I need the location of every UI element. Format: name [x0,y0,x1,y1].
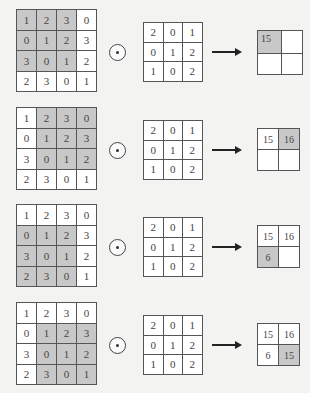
input-cell: 1 [77,266,97,287]
output-cell: 15 [258,324,279,345]
output-cell: 15 [279,345,300,366]
input-cell: 2 [77,344,97,365]
input-cell: 3 [57,10,77,31]
input-cell: 0 [57,266,77,287]
kernel-cell: 1 [144,257,164,277]
input-cell: 2 [37,108,57,129]
input-cell: 1 [17,303,37,324]
input-cell: 2 [77,149,97,170]
kernel-cell: 2 [183,42,203,62]
input-cell: 0 [77,108,97,129]
input-cell: 2 [17,364,37,385]
kernel-cell: 0 [163,257,183,277]
arrow-right-icon [212,149,236,151]
kernel-cell: 2 [183,355,203,375]
step-1: 1 2 3 0 0 1 2 3 3 0 1 2 2 3 0 1 [0,9,310,93]
input-cell: 3 [37,169,57,190]
input-cell: 3 [37,364,57,385]
output-cell: 15 [258,129,279,150]
output-matrix: 15 16 6 15 [257,323,300,366]
input-cell: 1 [17,205,37,226]
kernel-cell: 1 [163,140,183,160]
input-cell: 2 [17,169,37,190]
kernel-cell: 0 [163,316,183,336]
kernel-cell: 2 [183,257,203,277]
kernel-cell: 2 [144,218,164,238]
input-cell: 2 [57,323,77,344]
input-cell: 3 [77,225,97,246]
input-cell: 0 [77,10,97,31]
input-cell: 0 [17,128,37,149]
kernel-cell: 1 [163,237,183,257]
input-cell: 2 [77,51,97,72]
input-cell: 2 [57,225,77,246]
convolution-operator-icon [109,44,126,61]
kernel-cell: 0 [144,140,164,160]
kernel-cell: 2 [144,23,164,43]
input-cell: 2 [37,205,57,226]
input-cell: 2 [17,266,37,287]
input-cell: 3 [57,303,77,324]
input-cell: 1 [77,364,97,385]
output-cell: 15 [258,31,282,54]
kernel-cell: 2 [183,140,203,160]
kernel-cell: 2 [183,160,203,180]
input-cell: 3 [57,205,77,226]
kernel-cell: 1 [144,160,164,180]
input-cell: 1 [37,225,57,246]
kernel-cell: 0 [163,121,183,141]
kernel-cell: 2 [183,62,203,82]
output-cell [279,247,300,268]
input-cell: 0 [57,71,77,92]
output-cell [258,150,279,171]
input-cell: 2 [37,10,57,31]
output-matrix: 15 [257,30,303,75]
kernel-cell: 2 [144,121,164,141]
input-cell: 0 [57,169,77,190]
output-cell: 16 [279,324,300,345]
input-cell: 0 [17,323,37,344]
kernel-cell: 0 [144,335,164,355]
input-cell: 3 [77,323,97,344]
kernel-matrix: 2 0 1 0 1 2 1 0 2 [143,217,203,277]
kernel-cell: 2 [183,335,203,355]
input-cell: 0 [17,225,37,246]
step-3: 1 2 3 0 0 1 2 3 3 0 1 2 2 3 0 1 [0,204,310,288]
kernel-cell: 1 [183,218,203,238]
output-matrix: 15 16 6 [257,225,300,268]
input-cell: 1 [37,323,57,344]
arrow-right-icon [212,51,236,53]
output-cell [282,31,303,54]
input-matrix: 1 2 3 0 0 1 2 3 3 0 1 2 2 3 0 1 [16,107,97,190]
output-cell: 6 [258,247,279,268]
output-cell [279,150,300,171]
input-cell: 3 [17,51,37,72]
output-cell: 16 [279,226,300,247]
input-cell: 3 [77,128,97,149]
output-cell: 6 [258,345,279,366]
kernel-cell: 1 [144,62,164,82]
kernel-cell: 1 [183,316,203,336]
kernel-matrix: 2 0 1 0 1 2 1 0 2 [143,120,203,180]
input-cell: 1 [77,71,97,92]
input-cell: 1 [37,30,57,51]
kernel-matrix: 2 0 1 0 1 2 1 0 2 [143,22,203,82]
kernel-cell: 0 [144,42,164,62]
input-cell: 1 [17,108,37,129]
input-cell: 0 [37,149,57,170]
input-cell: 3 [17,344,37,365]
kernel-cell: 2 [144,316,164,336]
output-cell: 16 [279,129,300,150]
input-cell: 0 [37,51,57,72]
input-cell: 1 [57,344,77,365]
input-cell: 0 [57,364,77,385]
kernel-cell: 1 [183,23,203,43]
step-2: 1 2 3 0 0 1 2 3 3 0 1 2 2 3 0 1 [0,107,310,191]
kernel-cell: 1 [163,335,183,355]
input-cell: 2 [57,128,77,149]
input-cell: 0 [17,30,37,51]
kernel-matrix: 2 0 1 0 1 2 1 0 2 [143,315,203,375]
kernel-cell: 0 [144,237,164,257]
input-cell: 0 [37,344,57,365]
input-cell: 1 [57,149,77,170]
